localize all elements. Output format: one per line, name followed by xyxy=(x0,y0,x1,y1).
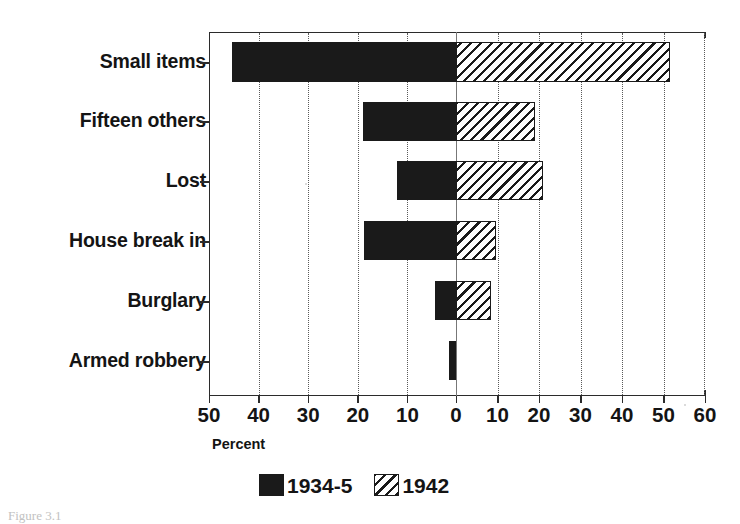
gridline xyxy=(581,33,582,395)
x-tick-mark xyxy=(705,396,707,403)
legend: 1934-5 1942 xyxy=(259,474,449,496)
scan-speck xyxy=(305,183,307,185)
bar-1942-fifteen-others xyxy=(456,102,535,141)
x-tick-label: 50 xyxy=(198,404,221,427)
bar-1934-5-small-items xyxy=(232,42,456,82)
bar-1934-5-fifteen-others xyxy=(363,102,456,141)
x-tick-mark xyxy=(580,396,582,403)
legend-label-1934-5: 1934-5 xyxy=(285,475,352,496)
x-tick-label: 60 xyxy=(694,404,717,427)
bar-1942-burglary xyxy=(456,281,491,320)
x-tick-label: 10 xyxy=(486,404,509,427)
bar-1942-house-break-in xyxy=(456,221,496,260)
y-tick-mark xyxy=(200,241,209,243)
solid-black-swatch-icon xyxy=(259,474,284,496)
x-tick-label: 30 xyxy=(297,404,320,427)
x-tick-label: 20 xyxy=(528,404,551,427)
gridline xyxy=(308,33,309,395)
y-axis-label-armed-robbery: Armed robbery xyxy=(69,351,206,371)
gridline xyxy=(704,33,705,395)
x-tick-label: 40 xyxy=(247,404,270,427)
x-tick-mark xyxy=(308,396,310,403)
y-tick-mark xyxy=(200,361,209,363)
x-tick-mark xyxy=(539,396,541,403)
bar-1934-5-burglary xyxy=(435,281,456,320)
scan-speck xyxy=(684,404,686,406)
x-tick-label: 0 xyxy=(450,404,461,427)
bar-1942-lost xyxy=(456,161,543,200)
bar-1942-small-items xyxy=(456,42,670,82)
y-tick-mark xyxy=(200,121,209,123)
y-tick-mark xyxy=(200,301,209,303)
y-axis-label-fifteen-others: Fifteen others xyxy=(80,111,206,131)
plot-area xyxy=(209,32,705,396)
x-tick-mark xyxy=(622,396,624,403)
x-tick-label: 20 xyxy=(346,404,369,427)
y-axis-label-burglary: Burglary xyxy=(127,291,206,311)
bar-1934-5-armed-robbery xyxy=(449,341,456,380)
y-axis-label-house-break-in: House break in xyxy=(69,231,206,251)
bar-1934-5-house-break-in xyxy=(364,221,456,260)
x-tick-mark xyxy=(357,396,359,403)
figure-container: Small items Fifteen others Lost House br… xyxy=(0,0,740,524)
y-tick-mark xyxy=(200,62,209,64)
x-axis-title: Percent xyxy=(212,436,265,452)
figure-caption: Figure 3.1 xyxy=(8,508,61,524)
x-tick-label: 40 xyxy=(611,404,634,427)
legend-item-1942: 1942 xyxy=(374,474,449,496)
bar-1934-5-lost xyxy=(397,161,456,200)
gridline xyxy=(407,33,408,395)
x-tick-mark xyxy=(407,396,409,403)
y-tick-mark xyxy=(200,181,209,183)
x-tick-label: 10 xyxy=(396,404,419,427)
legend-label-1942: 1942 xyxy=(400,475,449,496)
x-tick-label: 50 xyxy=(652,404,675,427)
gridline xyxy=(622,33,623,395)
x-tick-mark xyxy=(258,396,260,403)
x-tick-label: 30 xyxy=(569,404,592,427)
legend-item-1934-5: 1934-5 xyxy=(259,474,352,496)
x-tick-mark xyxy=(209,396,211,403)
gridline xyxy=(259,33,260,395)
gridline xyxy=(358,33,359,395)
x-tick-mark xyxy=(497,396,499,403)
gridline xyxy=(498,33,499,395)
x-tick-mark xyxy=(456,396,458,403)
x-tick-mark xyxy=(663,396,665,403)
y-axis-label-small-items: Small items xyxy=(100,52,206,72)
hatched-swatch-icon xyxy=(374,474,399,496)
gridline xyxy=(539,33,540,395)
gridline xyxy=(664,33,665,395)
